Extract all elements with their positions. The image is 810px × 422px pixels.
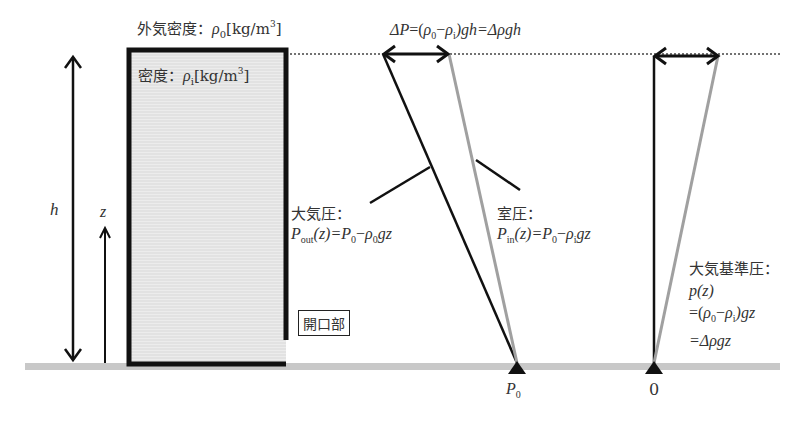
- room-leader: [476, 160, 520, 190]
- unit-close: ]: [243, 67, 249, 85]
- outside-density-label: 外気密度：ρ0[kg/m3]: [137, 17, 281, 40]
- atmospheric-pressure-label: 大気圧： Pout(z)=P0−ρ0gz: [291, 202, 392, 245]
- p: P: [291, 225, 301, 242]
- reference-line3: =Δρgz: [689, 330, 779, 352]
- p-sub: in: [507, 234, 515, 245]
- p0: P: [542, 225, 552, 242]
- p-sub: 0: [516, 389, 521, 400]
- unit-open: [kg/m: [194, 67, 238, 85]
- tail: gz: [577, 225, 591, 242]
- p: P: [497, 225, 507, 242]
- minus: −: [557, 225, 566, 242]
- p0: P: [341, 225, 351, 242]
- height-arrow: [65, 57, 81, 360]
- reference-pressure-label: 大気基準圧： p(z) =(ρ0−ρi)gz =Δρgz: [689, 258, 779, 352]
- z-arrow: [100, 228, 110, 363]
- reference-line2: =(ρ0−ρi)gz: [689, 302, 779, 330]
- inside-density-label: 密度：ρi[kg/m3]: [138, 64, 249, 87]
- height-label: h: [50, 200, 59, 220]
- delta-p-arrow: [384, 46, 448, 62]
- open: =(: [689, 304, 703, 321]
- close: )gz: [736, 304, 756, 321]
- delta-p: ΔP: [390, 21, 409, 38]
- rho-symbol: ρ: [212, 20, 220, 37]
- unit-open: [kg/m: [226, 20, 270, 38]
- atmospheric-formula: Pout(z)=P0−ρ0gz: [291, 225, 392, 245]
- rhoi: ρ: [725, 304, 733, 321]
- opening-label: 開口部: [298, 310, 350, 336]
- rhoi: ρ: [445, 21, 453, 38]
- p0-base-label: P0: [506, 380, 521, 400]
- rho0: ρ: [703, 304, 711, 321]
- rho: ρ: [566, 225, 574, 242]
- p-sub: out: [301, 234, 314, 245]
- formula-rest: )gh=Δρgh: [456, 21, 521, 38]
- eq-open: =(: [409, 21, 423, 38]
- tail: gz: [378, 225, 392, 242]
- arg: (z)=: [515, 225, 543, 242]
- room-title: 室圧：: [497, 202, 591, 223]
- building-interior: [129, 50, 286, 363]
- rho: ρ: [365, 225, 373, 242]
- diagram-canvas: 外気密度：ρ0[kg/m3] 密度：ρi[kg/m3] ΔP=(ρ0−ρi)gh…: [0, 0, 810, 422]
- atmospheric-title: 大気圧：: [291, 202, 392, 223]
- reference-title: 大気基準圧：: [689, 258, 779, 280]
- atmospheric-leader: [370, 167, 430, 203]
- rho-symbol: ρ: [183, 67, 191, 84]
- p: P: [506, 380, 516, 397]
- unit-close: ]: [276, 20, 282, 38]
- zero-base-label: 0: [649, 380, 659, 399]
- delta-p-formula: ΔP=(ρ0−ρi)gh=Δρgh: [390, 21, 521, 41]
- minus: −: [436, 21, 445, 38]
- inside-density-prefix: 密度：: [138, 67, 183, 85]
- room-pressure-label: 室圧： Pin(z)=P0−ρigz: [497, 202, 591, 245]
- minus: −: [356, 225, 365, 242]
- z-label: z: [100, 203, 106, 221]
- minus: −: [716, 304, 725, 321]
- reference-delta-arrow: [655, 48, 718, 64]
- room-formula: Pin(z)=P0−ρigz: [497, 225, 591, 245]
- reference-line1: p(z): [689, 280, 779, 302]
- diagram-svg: [0, 0, 810, 422]
- arg: (z)=: [314, 225, 342, 242]
- outside-density-prefix: 外気密度：: [137, 20, 212, 38]
